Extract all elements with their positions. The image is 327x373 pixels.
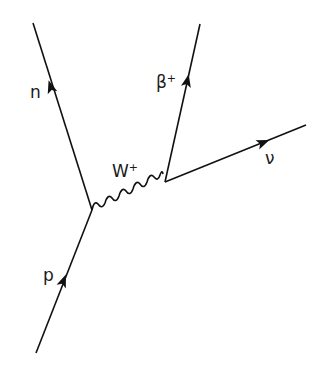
positron-line [165,24,200,182]
diagram-lines [0,0,327,373]
w-boson-label-base: W [112,161,129,181]
feynman-diagram: n β+ W+ ν p [0,0,327,373]
positron-arrow-icon [181,73,194,88]
neutron-label: n [30,84,41,101]
neutrino-label: ν [265,150,275,167]
positron-label-sup: + [167,72,176,85]
positron-label-base: β [156,72,167,92]
w-boson-label: W+ [112,162,138,180]
positron-label: β+ [156,73,176,91]
neutrino-line [165,125,306,182]
neutron-line [33,23,92,210]
w-boson-label-sup: + [129,161,138,174]
proton-arrow-icon [57,273,71,289]
proton-label: p [43,267,54,284]
